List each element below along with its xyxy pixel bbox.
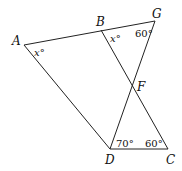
angle-label-g: 60°	[135, 28, 153, 39]
angle-label-c: 60°	[145, 138, 163, 149]
angle-label-a: x°	[34, 47, 45, 58]
point-label-f: F	[136, 80, 146, 94]
point-label-d: D	[104, 153, 115, 167]
segment-AD	[24, 45, 110, 149]
point-label-a: A	[11, 34, 21, 48]
angle-label-b: x°	[110, 33, 121, 44]
segment-BC	[101, 30, 168, 149]
point-label-g: G	[152, 7, 162, 21]
point-label-b: B	[95, 15, 105, 29]
angle-label-d: 70°	[116, 138, 134, 149]
point-label-c: C	[166, 153, 175, 167]
geometry-diagram: A B G F D C x° x° 60° 70° 60°	[0, 0, 182, 171]
